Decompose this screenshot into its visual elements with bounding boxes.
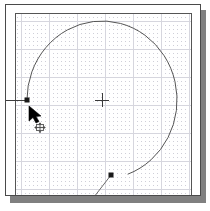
screen-root	[0, 0, 210, 211]
grip-node-start[interactable]	[25, 98, 30, 103]
move-cursor	[28, 106, 54, 136]
pan-badge-icon	[34, 122, 46, 133]
tangent-line[interactable]	[94, 175, 111, 196]
center-crosshair	[95, 93, 109, 107]
geometry-layer[interactable]	[6, 5, 201, 196]
drawing-panel[interactable]	[5, 4, 201, 196]
grip-node-end[interactable]	[109, 173, 114, 178]
cursor-arrow-icon	[29, 106, 41, 123]
